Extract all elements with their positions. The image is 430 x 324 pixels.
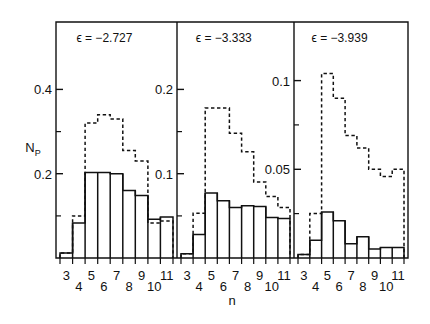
histogram-solid [181, 193, 290, 258]
x-axis-tick-label: 8 [359, 279, 366, 294]
panel-label-epsilon: ϵ = −3.939 [312, 31, 368, 45]
x-axis-tick-label: 8 [125, 279, 132, 294]
x-axis-tick-label: 5 [88, 268, 95, 283]
y-axis-title: NP [25, 140, 40, 158]
histogram-dashed [181, 108, 290, 258]
histogram-solid [298, 212, 404, 258]
x-axis-tick-label: 5 [324, 268, 331, 283]
panel-label-epsilon: ϵ = −3.333 [196, 31, 252, 45]
x-axis-tick-label: 9 [371, 268, 378, 283]
x-axis-tick-label: 4 [196, 279, 203, 294]
x-axis-tick-label: 6 [336, 279, 343, 294]
x-axis-tick-label: 4 [75, 279, 82, 294]
y-axis-tick-label: 0.2 [155, 82, 173, 97]
histogram-solid [60, 172, 173, 258]
y-axis-tick-label: 0.4 [34, 82, 52, 97]
x-axis-tick-label: 8 [244, 279, 251, 294]
x-axis-tick-label: 9 [138, 268, 145, 283]
histogram-dashed [60, 115, 173, 258]
y-axis-tick-label: 0.05 [265, 162, 290, 177]
x-axis-tick-label: 6 [100, 279, 107, 294]
x-axis-title: n [228, 293, 235, 308]
x-axis-tick-label: 7 [232, 268, 239, 283]
x-axis-tick-label: 11 [160, 268, 174, 283]
y-axis-tick-label: 0.1 [272, 74, 290, 89]
x-axis-tick-label: 11 [277, 268, 291, 283]
x-axis-tick-label: 4 [312, 279, 319, 294]
x-axis-tick-label: 3 [183, 268, 190, 283]
x-axis-tick-label: 7 [347, 268, 354, 283]
x-axis-tick-label: 3 [300, 268, 307, 283]
x-axis-tick-label: 3 [63, 268, 70, 283]
panel-label-epsilon: ϵ = −2.727 [76, 31, 132, 45]
y-axis-tick-label: 0.2 [34, 167, 52, 182]
plot-frame [56, 22, 408, 258]
x-axis-tick-label: 5 [208, 268, 215, 283]
x-axis-tick-label: 9 [256, 268, 263, 283]
x-axis-tick-label: 7 [113, 268, 120, 283]
x-axis-tick-label: 11 [391, 268, 405, 283]
y-axis-tick-label: 0.1 [155, 167, 173, 182]
histogram-dashed [298, 74, 404, 259]
x-axis-tick-label: 6 [220, 279, 227, 294]
figure-canvas: 0.40.234567891011ϵ = −2.7270.20.13456789… [0, 0, 430, 324]
